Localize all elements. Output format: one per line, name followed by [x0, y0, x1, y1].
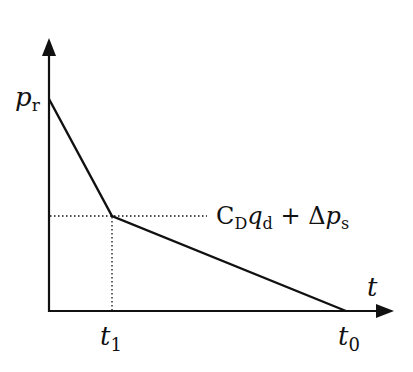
- y-axis-label: pr: [15, 82, 41, 115]
- ann-q: q: [247, 202, 262, 230]
- knee-annotation: CDqd + Δps: [216, 202, 349, 233]
- x-axis-arrow-icon: [376, 304, 394, 318]
- ann-q-sub: d: [263, 214, 273, 233]
- y-label-main: p: [15, 82, 32, 112]
- ann-p: p: [326, 202, 341, 230]
- t0-main: t: [338, 321, 349, 351]
- pressure-time-diagram: pr t t1 t0 CDqd + Δps: [0, 0, 413, 372]
- t1-sub: 1: [110, 334, 121, 355]
- ann-p-sub: s: [341, 214, 349, 233]
- tick-label-t0: t0: [338, 321, 360, 355]
- y-label-sub: r: [32, 95, 41, 115]
- ann-plus: +: [273, 202, 308, 230]
- y-axis-arrow-icon: [42, 38, 56, 56]
- t1-main: t: [100, 321, 111, 351]
- tick-label-t1: t1: [100, 321, 122, 355]
- ann-c: C: [216, 202, 234, 230]
- ann-delta: Δ: [308, 202, 325, 230]
- x-axis-label: t: [367, 272, 378, 302]
- t0-sub: 0: [348, 334, 359, 355]
- ann-c-sub: D: [234, 214, 247, 233]
